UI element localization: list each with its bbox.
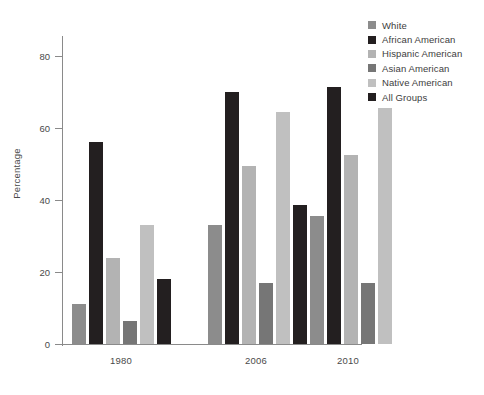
x-axis-tick-label-1980: 1980 (110, 355, 132, 366)
legend-swatch-icon (368, 79, 376, 87)
legend-label: Hispanic American (382, 48, 462, 59)
bar-asian-american-2010[interactable] (361, 283, 375, 344)
legend-item-native-american[interactable]: Native American (368, 76, 484, 90)
y-axis-tick (55, 56, 62, 57)
bar-native-american-2006[interactable] (276, 112, 290, 344)
legend-label: Asian American (382, 63, 449, 74)
legend-swatch-icon (368, 64, 376, 72)
y-axis-tick (55, 128, 62, 129)
bar-african-american-2006[interactable] (225, 92, 239, 344)
legend-label: White (382, 20, 407, 31)
y-axis-tick (55, 272, 62, 273)
x-axis-tick-label-2006: 2006 (245, 355, 267, 366)
legend-swatch-icon (368, 93, 376, 101)
y-axis-tick-label: 0 (10, 339, 50, 350)
legend-swatch-icon (368, 21, 376, 29)
bar-all-groups-1980[interactable] (157, 279, 171, 344)
x-axis-line (62, 344, 362, 345)
y-axis-tick-label: 20 (10, 267, 50, 278)
y-axis-tick (55, 200, 62, 201)
legend-item-asian-american[interactable]: Asian American (368, 61, 484, 75)
bar-native-american-2010[interactable] (378, 108, 392, 344)
bar-hispanic-american-1980[interactable] (106, 258, 120, 344)
bar-hispanic-american-2010[interactable] (344, 155, 358, 344)
bar-all-groups-2006[interactable] (293, 205, 307, 344)
bar-white-1980[interactable] (72, 304, 86, 344)
x-axis-tick-label-2010: 2010 (337, 355, 359, 366)
y-axis-tick-label-wrap: 0 (8, 344, 50, 345)
y-axis-tick-label: 60 (10, 123, 50, 134)
legend-item-hispanic-american[interactable]: Hispanic American (368, 47, 484, 61)
legend-label: African American (382, 34, 455, 45)
bar-african-american-2010[interactable] (327, 87, 341, 344)
bar-native-american-1980[interactable] (140, 225, 154, 344)
y-axis-tick-label: 80 (10, 51, 50, 62)
legend-swatch-icon (368, 36, 376, 44)
bar-asian-american-2006[interactable] (259, 283, 273, 344)
bar-hispanic-american-2006[interactable] (242, 166, 256, 344)
bar-chart-figure: Percentage 020406080 198020062010 WhiteA… (0, 0, 484, 395)
legend-item-all-groups[interactable]: All Groups (368, 90, 484, 104)
bar-white-2006[interactable] (208, 225, 222, 344)
bar-white-2010[interactable] (310, 216, 324, 344)
bar-african-american-1980[interactable] (89, 142, 103, 344)
y-axis-tick-label-wrap: 60 (8, 128, 50, 129)
legend-item-white[interactable]: White (368, 18, 484, 32)
y-axis-tick-label-wrap: 80 (8, 56, 50, 57)
plot-area (62, 38, 352, 344)
legend-label: Native American (382, 77, 453, 88)
legend-item-african-american[interactable]: African American (368, 32, 484, 46)
y-axis-tick (55, 344, 62, 345)
legend-swatch-icon (368, 50, 376, 58)
chart-legend: WhiteAfrican AmericanHispanic AmericanAs… (368, 18, 484, 104)
y-axis-tick-label-wrap: 20 (8, 272, 50, 273)
y-axis-tick-label: 40 (10, 195, 50, 206)
legend-label: All Groups (382, 92, 427, 103)
y-axis-tick-label-wrap: 40 (8, 200, 50, 201)
bar-asian-american-1980[interactable] (123, 321, 137, 344)
